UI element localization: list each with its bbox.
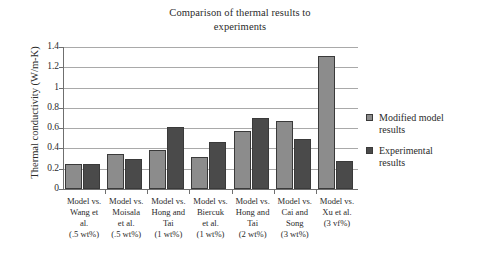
legend-label-line-2: results — [379, 124, 474, 136]
x-axis-category-line: Song — [274, 218, 316, 229]
chart-legend: Modified modelresultsExperimentalresults — [366, 112, 474, 178]
bar-group — [274, 47, 316, 189]
x-axis-category-line: Wang et — [63, 207, 105, 218]
bar-group — [232, 47, 274, 189]
bar-group — [189, 47, 231, 189]
x-axis-category-line: (3 vf%) — [316, 218, 358, 229]
x-axis-category-label: Model vs.Xu et al.(3 vf%) — [316, 196, 358, 229]
legend-swatch-icon — [366, 147, 373, 154]
x-axis-category-label: Model vs.Wang etal.(.5 wt%) — [63, 196, 105, 240]
y-axis-tick-label: 0.8 — [29, 103, 59, 113]
legend-swatch-icon — [366, 114, 373, 121]
chart-title-line-2: experiments — [100, 20, 380, 34]
legend-entry: Experimentalresults — [366, 145, 474, 169]
x-axis-category-line: (1 wt%) — [147, 229, 189, 240]
chart-page: Comparison of thermal results to experim… — [0, 0, 477, 260]
x-axis-category-line: (3 wt%) — [274, 229, 316, 240]
legend-label-line-1: Experimental — [379, 145, 474, 157]
x-axis-category-line: Cai and — [274, 207, 316, 218]
x-axis-category-line: (.5 wt%) — [105, 229, 147, 240]
x-axis-category-line: Model vs. — [274, 196, 316, 207]
x-axis-category-line: Tai — [147, 218, 189, 229]
x-axis-category-label: Model vs.Hong andTai(1 wt%) — [147, 196, 189, 240]
y-axis-tick-labels: 1.41.210.80.60.40.20 — [27, 47, 59, 190]
x-axis-tick-mark — [232, 190, 233, 194]
bar-modified-model — [276, 121, 293, 189]
x-axis-category-line: Hong and — [147, 207, 189, 218]
x-axis-category-label: Model vs.Moisalaet al.(.5 wt%) — [105, 196, 147, 240]
legend-label-line-1: Modified model — [379, 112, 474, 124]
x-axis-category-line: Moisala — [105, 207, 147, 218]
y-axis-tick-label: 1.2 — [29, 62, 59, 72]
y-axis-tick-label: 1 — [29, 83, 59, 93]
x-axis-category-line: (.5 wt%) — [63, 229, 105, 240]
bar-group — [63, 47, 105, 189]
x-axis-category-label: Model vs.Biercuket al.(1 wt%) — [190, 196, 232, 240]
x-axis-category-line: Model vs. — [232, 196, 274, 207]
bar-modified-model — [191, 157, 208, 189]
x-axis-tick-mark — [147, 190, 148, 194]
bar-experimental — [167, 127, 184, 189]
x-axis-category-line: Xu et al. — [316, 207, 358, 218]
x-axis-category-line: Model vs. — [316, 196, 358, 207]
bar-group — [316, 47, 358, 189]
x-axis-category-line: Model vs. — [105, 196, 147, 207]
bar-experimental — [209, 142, 226, 189]
plot-area — [63, 47, 358, 190]
bar-experimental — [125, 159, 142, 189]
bar-modified-model — [107, 154, 124, 190]
x-axis-category-line: Biercuk — [190, 207, 232, 218]
bar-experimental — [252, 118, 269, 189]
bar-modified-model — [65, 164, 82, 189]
bar-modified-model — [318, 56, 335, 189]
x-axis-category-labels: Model vs.Wang etal.(.5 wt%)Model vs.Mois… — [63, 196, 358, 254]
legend-label-line-2: results — [379, 157, 474, 169]
x-axis-category-line: Model vs. — [147, 196, 189, 207]
bar-group — [147, 47, 189, 189]
y-axis-tick-label: 1.4 — [29, 42, 59, 52]
bars-layer — [63, 47, 358, 190]
y-axis-tick-label: 0 — [29, 184, 59, 194]
x-axis-category-line: et al. — [105, 218, 147, 229]
y-axis-tick-label: 0.6 — [29, 123, 59, 133]
bar-modified-model — [234, 131, 251, 189]
x-axis-tick-marks — [63, 190, 358, 195]
y-axis-tick-label: 0.2 — [29, 164, 59, 174]
x-axis-category-line: Tai — [232, 218, 274, 229]
y-axis-tick-label: 0.4 — [29, 143, 59, 153]
x-axis-category-line: Hong and — [232, 207, 274, 218]
x-axis-category-label: Model vs.Hong andTai(2 wt%) — [232, 196, 274, 240]
bar-experimental — [336, 161, 353, 189]
bar-group — [105, 47, 147, 189]
x-axis-category-line: Model vs. — [63, 196, 105, 207]
chart-title: Comparison of thermal results to experim… — [100, 6, 380, 34]
x-axis-category-line: Model vs. — [190, 196, 232, 207]
x-axis-category-line: al. — [63, 218, 105, 229]
legend-entry: Modified modelresults — [366, 112, 474, 136]
x-axis-tick-mark — [274, 190, 275, 194]
bar-modified-model — [149, 150, 166, 189]
x-axis-tick-mark — [189, 190, 190, 194]
x-axis-tick-mark — [316, 190, 317, 194]
chart-title-line-1: Comparison of thermal results to — [100, 6, 380, 20]
x-axis-tick-mark — [105, 190, 106, 194]
bar-experimental — [294, 139, 311, 189]
x-axis-category-line: et al. — [190, 218, 232, 229]
x-axis-category-line: (2 wt%) — [232, 229, 274, 240]
bar-experimental — [83, 164, 100, 189]
x-axis-category-line: (1 wt%) — [190, 229, 232, 240]
x-axis-category-label: Model vs.Cai andSong(3 wt%) — [274, 196, 316, 240]
